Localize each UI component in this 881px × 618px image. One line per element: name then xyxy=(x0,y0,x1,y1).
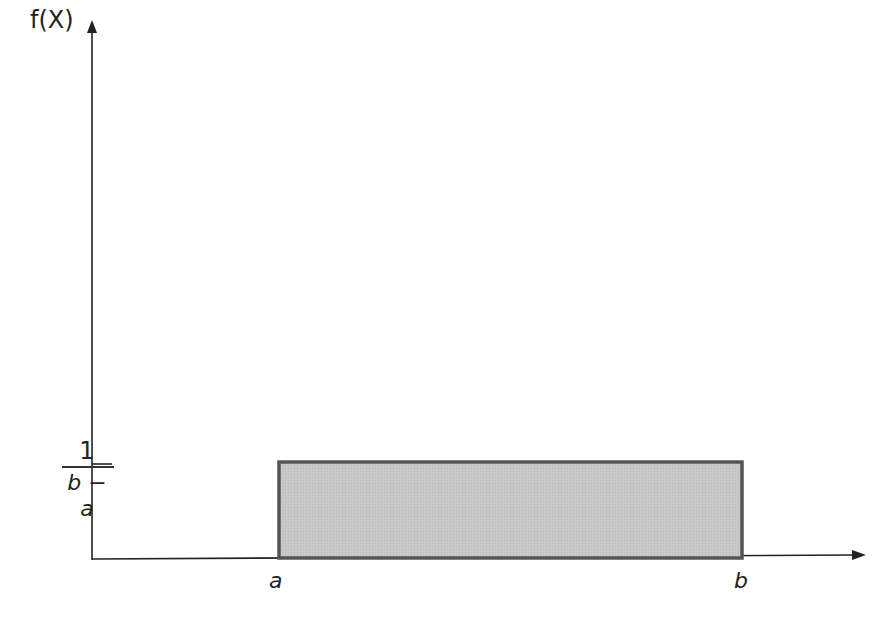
fraction-numerator: 1 xyxy=(60,438,114,464)
x-axis-arrow-icon xyxy=(852,550,866,560)
y-tick-label: 1 b − a xyxy=(60,438,114,522)
y-axis-label: f(X) xyxy=(30,6,74,34)
fraction-bar xyxy=(62,466,114,468)
uniform-distribution-diagram xyxy=(0,0,881,618)
x-tick-label-a: a xyxy=(269,568,282,593)
density-rectangle xyxy=(279,462,742,558)
fraction-denominator: b − a xyxy=(60,470,114,522)
y-axis-arrow-icon xyxy=(87,20,97,33)
x-tick-label-b: b xyxy=(734,568,748,593)
